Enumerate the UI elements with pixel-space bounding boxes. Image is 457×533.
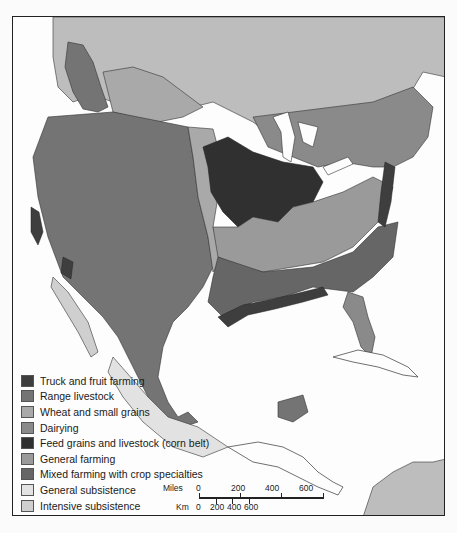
region-yucatan (278, 395, 308, 422)
legend-label: General subsistence (40, 484, 136, 496)
scale-tick-mark (323, 493, 324, 498)
legend-item-range: Range livestock (21, 389, 209, 405)
scale-km-tick: 0 (196, 502, 201, 512)
legend-label: Truck and fruit farming (40, 375, 145, 387)
legend-swatch (21, 422, 34, 434)
legend-label: Wheat and small grains (40, 406, 150, 418)
legend-swatch (21, 375, 34, 387)
legend-swatch (21, 468, 34, 480)
scale-km-label: Km (176, 502, 189, 512)
scale-tick-mark (199, 493, 200, 498)
legend-swatch (21, 390, 34, 402)
legend-label: Nonfarming (40, 515, 94, 516)
map-frame: Truck and fruit farming Range livestock … (12, 16, 445, 516)
region-truck-atlantic (378, 162, 395, 227)
legend-label: Range livestock (40, 390, 114, 402)
scale-bar: Miles 0 200 400 600 Km 0 200 400 600 (163, 483, 323, 515)
region-south-america (363, 459, 445, 516)
legend-item-truck: Truck and fruit farming (21, 373, 209, 389)
legend-swatch (21, 500, 34, 512)
legend-item-dairying: Dairying (21, 420, 209, 436)
region-florida (343, 292, 375, 357)
legend-item-general-farming: General farming (21, 451, 209, 467)
legend-swatch (21, 484, 34, 496)
legend-item-corn-belt: Feed grains and livestock (corn belt) (21, 435, 209, 451)
legend-label: Feed grains and livestock (corn belt) (40, 437, 209, 449)
scale-line (199, 497, 324, 499)
scale-miles-tick: 0 (196, 483, 201, 493)
legend-label: General farming (40, 453, 115, 465)
scale-miles-tick: 400 (265, 483, 279, 493)
scale-miles-tick: 600 (299, 483, 313, 493)
scale-tick-mark (240, 493, 241, 498)
legend-item-wheat: Wheat and small grains (21, 404, 209, 420)
scale-tick-mark (281, 493, 282, 498)
legend-swatch (21, 515, 34, 516)
legend-item-mixed-farming: Mixed farming with crop specialties (21, 467, 209, 483)
scale-km-tick: 600 (244, 502, 258, 512)
legend-label: Dairying (40, 422, 79, 434)
legend-swatch (21, 437, 34, 449)
scale-miles-label: Miles (163, 483, 183, 493)
scale-km-tick: 200 (210, 502, 224, 512)
legend-label: Mixed farming with crop specialties (40, 468, 203, 480)
legend-label: Intensive subsistence (40, 500, 140, 512)
scale-miles-tick: 200 (231, 483, 245, 493)
scale-km-tick: 400 (227, 502, 241, 512)
legend-swatch (21, 406, 34, 418)
region-cuba (333, 350, 418, 377)
legend-swatch (21, 453, 34, 465)
